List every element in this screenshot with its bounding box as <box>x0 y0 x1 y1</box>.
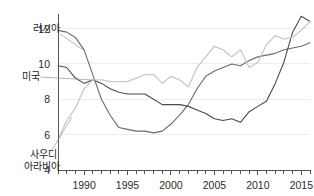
series-label-saudi-line2: 아라비아 <box>24 161 60 172</box>
y-tick-label: 10 <box>38 58 50 70</box>
series-label-usa: 미국 <box>22 71 40 82</box>
x-tick-label: 2000 <box>159 179 183 191</box>
series-label-russia: 러시아 <box>33 23 60 34</box>
x-tick-labels: 199019952000200520102015 <box>72 179 313 191</box>
x-tick-label: 2005 <box>203 179 227 191</box>
data-series-group <box>58 16 310 140</box>
leader-line <box>40 77 91 80</box>
x-tickmarks <box>58 170 310 175</box>
y-tick-label: 8 <box>44 93 50 105</box>
x-tick-label: 2015 <box>290 179 314 191</box>
leader-line <box>52 117 72 150</box>
x-tick-label: 1995 <box>116 179 140 191</box>
oil-production-chart: 4681012 199019952000200520102015 러시아 미국 … <box>0 0 314 196</box>
x-tick-label: 1990 <box>72 179 96 191</box>
x-tick-label: 2010 <box>246 179 270 191</box>
series-label-saudi-line1: 사우디 <box>30 149 57 160</box>
chart-svg: 4681012 199019952000200520102015 러시아 미국 … <box>0 0 314 196</box>
series-line <box>58 16 310 122</box>
leader-line <box>60 34 83 50</box>
y-tick-label: 6 <box>44 129 50 141</box>
